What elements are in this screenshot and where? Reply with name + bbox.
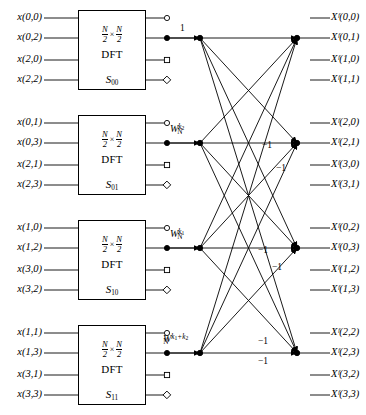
input-label: x(2,3): [2, 179, 42, 190]
gain-label-minus-one: −1: [258, 245, 268, 255]
input-label: x(1,0): [2, 222, 42, 233]
dft-word-label: DFT: [79, 153, 145, 165]
dft-name-label: S01: [79, 174, 145, 192]
dft-name-label: S10: [79, 279, 145, 297]
input-label: x(1,2): [2, 242, 42, 253]
gain-label-unity: 1: [180, 23, 185, 33]
gain-label-minus-one: −1: [262, 140, 272, 150]
output-label: Xᶠ(3,3): [331, 389, 359, 400]
output-label: Xᶠ(0,0): [331, 12, 359, 23]
output-label: Xᶠ(1,2): [331, 264, 359, 275]
output-label: Xᶠ(3,1): [331, 179, 359, 190]
input-label: x(3,1): [2, 369, 42, 380]
input-label: x(0,3): [2, 137, 42, 148]
dft-size-label: N2×N2: [79, 129, 145, 148]
input-label: x(3,0): [2, 264, 42, 275]
dft-block-s01: N2×N2 DFT S01: [78, 115, 146, 195]
dft-word-label: DFT: [79, 258, 145, 270]
input-label: x(2,2): [2, 74, 42, 85]
twiddle-label-s10: Wk1N: [170, 228, 183, 241]
input-label: x(2,1): [2, 159, 42, 170]
dft-size-label: N2×N2: [79, 339, 145, 358]
output-label: Xᶠ(3,2): [331, 369, 359, 380]
dft-name-label: S00: [79, 69, 145, 87]
gain-label-minus-one: −1: [258, 336, 268, 346]
output-label: Xᶠ(0,1): [331, 32, 359, 43]
input-label: x(0,2): [2, 32, 42, 43]
twiddle-label-s01: Wk2N: [170, 123, 183, 136]
output-label: Xᶠ(0,3): [331, 242, 359, 253]
input-label: x(1,3): [2, 347, 42, 358]
dft-word-label: DFT: [79, 363, 145, 375]
dft-word-label: DFT: [79, 48, 145, 60]
diagram-canvas: x(0,0) x(0,2) x(2,0) x(2,2) x(0,1) x(0,3…: [0, 0, 366, 415]
output-label: Xᶠ(2,0): [331, 117, 359, 128]
input-label: x(0,0): [2, 12, 42, 23]
output-label: Xᶠ(3,0): [331, 159, 359, 170]
input-label: x(2,0): [2, 54, 42, 65]
input-label: x(0,1): [2, 117, 42, 128]
output-label: Xᶠ(2,1): [331, 137, 359, 148]
output-label: Xᶠ(1,3): [331, 284, 359, 295]
input-label: x(3,2): [2, 284, 42, 295]
gain-label-minus-one: −1: [272, 262, 282, 272]
dft-size-label: N2×N2: [79, 24, 145, 43]
output-label: Xᶠ(1,1): [331, 74, 359, 85]
dft-size-label: N2×N2: [79, 234, 145, 253]
gain-label-minus-one: −1: [276, 163, 286, 173]
gain-label-minus-one: −1: [258, 356, 268, 366]
twiddle-label-s11: Wk1+k2N: [163, 333, 168, 346]
input-label: x(3,3): [2, 389, 42, 400]
output-label: Xᶠ(2,3): [331, 347, 359, 358]
dft-block-s11: N2×N2 DFT S11: [78, 325, 146, 405]
input-label: x(1,1): [2, 327, 42, 338]
output-label: Xᶠ(1,0): [331, 54, 359, 65]
dft-block-s00: N2×N2 DFT S00: [78, 10, 146, 90]
dft-block-s10: N2×N2 DFT S10: [78, 220, 146, 300]
output-label: Xᶠ(2,2): [331, 327, 359, 338]
output-label: Xᶠ(0,2): [331, 222, 359, 233]
dft-name-label: S11: [79, 384, 145, 402]
signal-flow-wires: [0, 0, 366, 415]
